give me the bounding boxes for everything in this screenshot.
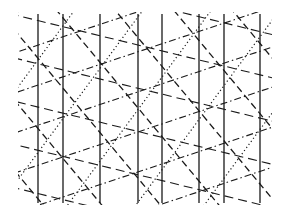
background <box>0 0 289 217</box>
line-pattern-canvas <box>0 0 289 217</box>
